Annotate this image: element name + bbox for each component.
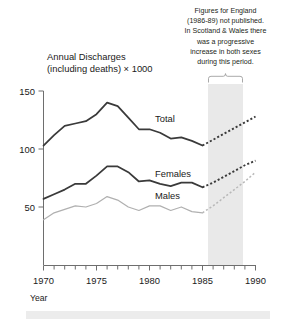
annotation-line-3: In Scotland & Wales there xyxy=(185,27,267,35)
annotation-line-5: increase in both sexes xyxy=(190,48,261,56)
unpublished-data-band xyxy=(208,84,243,265)
chart-title-line-2: (including deaths) × 1000 xyxy=(47,63,153,74)
chart-container: Figures for England (1986-89) not publis… xyxy=(0,0,290,319)
annual-discharges-line-chart: Figures for England (1986-89) not publis… xyxy=(0,0,290,319)
series-label-total: Total xyxy=(155,113,175,124)
x-tick-label-1985: 1985 xyxy=(192,275,213,286)
y-tick-label-150: 150 xyxy=(19,86,35,97)
x-tick-label-1975: 1975 xyxy=(86,275,107,286)
annotation-line-2: (1986-89) not published. xyxy=(187,17,264,25)
footer-band xyxy=(26,311,270,319)
y-tick-label-50: 50 xyxy=(25,202,35,213)
series-label-males: Males xyxy=(155,190,180,201)
x-tick-label-1990: 1990 xyxy=(245,275,266,286)
chart-title-line-1: Annual Discharges xyxy=(47,51,126,62)
x-tick-label-1980: 1980 xyxy=(139,275,160,286)
x-tick-label-1970: 1970 xyxy=(33,275,54,286)
series-label-females: Females xyxy=(155,168,191,179)
annotation-line-1: Figures for England xyxy=(195,7,257,15)
annotation-line-6: during this period. xyxy=(197,58,253,66)
annotation-line-4: was a progressive xyxy=(196,38,254,46)
x-axis-title: Year xyxy=(30,293,48,303)
y-tick-label-100: 100 xyxy=(19,144,35,155)
